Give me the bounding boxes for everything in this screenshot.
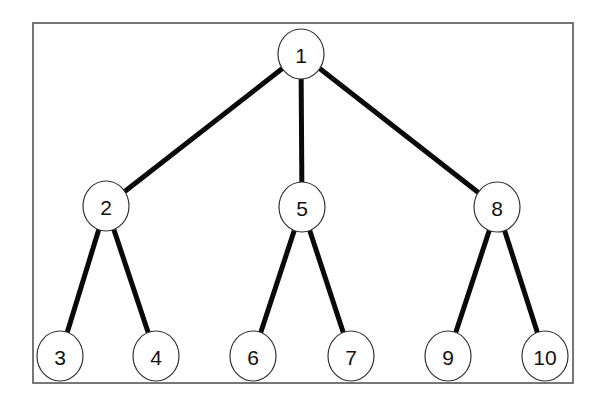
edge-2-4 <box>114 230 148 333</box>
edge-8-9 <box>456 231 490 333</box>
tree-node-6: 6 <box>230 331 276 381</box>
tree-node-4: 4 <box>133 331 179 381</box>
node-label: 9 <box>442 346 454 369</box>
edge-1-2 <box>125 69 283 192</box>
tree-node-7: 7 <box>328 331 374 381</box>
node-label: 6 <box>247 346 259 369</box>
tree-node-8: 8 <box>474 182 520 232</box>
node-label: 5 <box>296 197 308 220</box>
edge-5-6 <box>261 231 295 333</box>
edge-5-7 <box>310 231 344 333</box>
tree-node-2: 2 <box>83 181 129 231</box>
edge-1-8 <box>320 69 479 193</box>
tree-node-1: 1 <box>278 29 324 79</box>
edge-2-3 <box>67 230 98 333</box>
node-label: 2 <box>100 196 112 219</box>
tree-node-9: 9 <box>425 331 471 381</box>
tree-diagram: 12583467910 <box>0 0 598 400</box>
node-label: 4 <box>150 346 162 369</box>
node-label: 3 <box>54 346 66 369</box>
node-label: 10 <box>533 346 556 369</box>
tree-node-10: 10 <box>522 331 568 381</box>
tree-node-3: 3 <box>37 331 83 381</box>
node-label: 1 <box>295 44 307 67</box>
tree-node-5: 5 <box>279 182 325 232</box>
edge-1-5 <box>301 79 302 182</box>
edge-8-10 <box>505 231 538 333</box>
node-label: 7 <box>345 346 357 369</box>
node-label: 8 <box>491 197 503 220</box>
